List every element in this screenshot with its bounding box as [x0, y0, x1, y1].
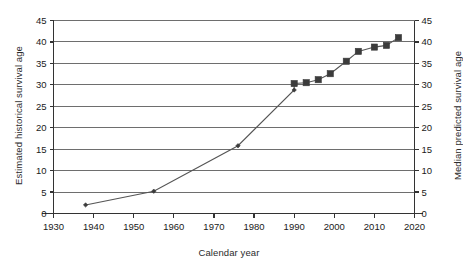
y-tick-label-left-5: 5: [41, 187, 46, 198]
x-tick-label-2000: 2000: [324, 221, 345, 232]
y-tick-label-left-10: 10: [36, 165, 47, 176]
y-tick-label-left-35: 35: [36, 58, 47, 69]
x-tick-label-2010: 2010: [364, 221, 385, 232]
y-tick-label-right-15: 15: [422, 144, 433, 155]
y-tick-label-left-25: 25: [36, 101, 47, 112]
x-tick-label-1930: 1930: [43, 221, 64, 232]
y-tick-label-left-15: 15: [36, 144, 47, 155]
data-point-1-2: [315, 77, 321, 83]
data-point-1-8: [395, 35, 401, 41]
y-tick-label-right-20: 20: [422, 122, 433, 133]
x-tick-label-1970: 1970: [203, 221, 224, 232]
data-point-1-7: [383, 42, 389, 48]
data-point-1-6: [371, 44, 377, 50]
y-tick-label-right-10: 10: [422, 165, 433, 176]
y-tick-label-right-5: 5: [422, 187, 427, 198]
x-tick-label-1990: 1990: [284, 221, 305, 232]
data-point-1-5: [355, 48, 361, 54]
y-tick-label-left-45: 45: [36, 15, 47, 26]
data-point-1-3: [327, 71, 333, 77]
y-tick-label-left-30: 30: [36, 79, 47, 90]
y-tick-label-right-30: 30: [422, 79, 433, 90]
data-point-1-4: [343, 58, 349, 64]
y-tick-label-right-40: 40: [422, 36, 433, 47]
y-tick-label-right-25: 25: [422, 101, 433, 112]
data-point-0-0: [83, 203, 87, 207]
y-tick-label-right-0: 0: [422, 208, 427, 219]
x-tick-label-1960: 1960: [163, 221, 184, 232]
y-tick-label-right-35: 35: [422, 58, 433, 69]
x-tick-label-1950: 1950: [123, 221, 144, 232]
y-tick-label-right-45: 45: [422, 15, 433, 26]
x-tick-label-2020: 2020: [404, 221, 425, 232]
x-tick-label-1940: 1940: [83, 221, 104, 232]
data-point-1-0: [291, 80, 297, 86]
y-tick-label-left-0: 0: [41, 208, 46, 219]
data-line: [86, 38, 399, 205]
x-tick-label-1980: 1980: [243, 221, 264, 232]
data-point-1-1: [303, 80, 309, 86]
data-point-0-1: [152, 189, 156, 193]
y-tick-label-left-40: 40: [36, 36, 47, 47]
y-tick-label-left-20: 20: [36, 122, 47, 133]
